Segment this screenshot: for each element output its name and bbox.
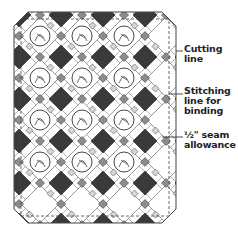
gray-cornerstone [0, 221, 3, 230]
light-cornerstone [5, 190, 12, 197]
light-cornerstone [110, 1, 117, 8]
light-cornerstone [5, 148, 12, 155]
light-cornerstone [5, 22, 12, 29]
quilt-lattice [0, 0, 238, 236]
medallion-block [147, 0, 185, 13]
medallion-block [105, 0, 143, 13]
light-cornerstone [5, 106, 12, 113]
light-cornerstone [26, 1, 33, 8]
gray-cornerstone [183, 32, 192, 41]
dark-square [175, 3, 199, 27]
gray-cornerstone [0, 179, 3, 188]
gray-cornerstone [183, 74, 192, 83]
medallion-block [21, 0, 59, 13]
label-cutting-line: Cutting line [184, 44, 222, 64]
gray-cornerstone [183, 200, 192, 209]
gray-cornerstone [0, 137, 3, 146]
quilt-diagram [0, 0, 238, 236]
light-cornerstone [152, 1, 159, 8]
label-stitching-line: Stitching line for binding [184, 86, 231, 116]
medallion-block [0, 0, 17, 13]
dark-square [175, 213, 199, 236]
gray-cornerstone [0, 11, 3, 20]
gray-cornerstone [0, 95, 3, 104]
gray-cornerstone [183, 116, 192, 125]
gray-cornerstone [0, 53, 3, 62]
light-cornerstone [5, 64, 12, 71]
label-seam-allowance: ½" seam allowance [184, 130, 236, 150]
gray-cornerstone [183, 158, 192, 167]
dark-square [175, 171, 199, 195]
medallion-block [63, 0, 101, 13]
light-cornerstone [68, 1, 75, 8]
